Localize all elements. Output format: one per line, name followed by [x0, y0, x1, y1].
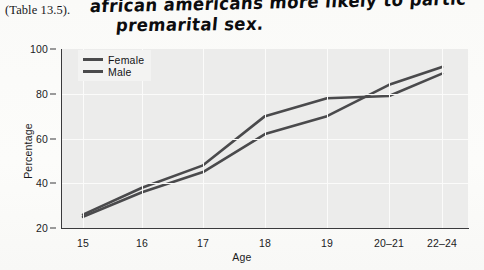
handwritten-annotation-line-2: premarital sex.: [115, 13, 484, 35]
y-tick-mark: [50, 93, 56, 94]
legend-item-male: Male: [83, 66, 144, 77]
gridline-vertical: [327, 49, 328, 228]
x-tick-label: 15: [77, 237, 89, 249]
y-tick-label: 40: [36, 177, 48, 189]
x-tick-label: 19: [321, 237, 333, 249]
y-tick-label: 80: [36, 88, 48, 100]
x-tick-label: 22–24: [427, 237, 457, 249]
legend-swatch-icon: [83, 58, 103, 61]
legend-label: Female: [108, 54, 144, 66]
legend-swatch-icon: [83, 70, 103, 73]
gridline-vertical: [389, 49, 390, 228]
y-tick-mark: [50, 183, 56, 184]
y-tick-label: 100: [30, 43, 48, 55]
gridline-vertical: [203, 49, 204, 228]
y-axis-ticks: 100 80 60 40 20: [18, 40, 56, 240]
table-reference-caption: (Table 13.5).: [5, 3, 70, 18]
handwritten-annotation: african americans more likely to partic …: [90, 0, 484, 34]
legend-item-female: Female: [83, 54, 144, 65]
x-axis-label: Age: [0, 251, 484, 263]
gridline-vertical: [442, 49, 443, 228]
legend-label: Male: [108, 66, 132, 78]
y-tick-mark: [50, 138, 56, 139]
x-tick-label: 16: [136, 237, 148, 249]
x-tick-label: 17: [197, 237, 209, 249]
y-axis-line: [61, 49, 62, 229]
y-tick-label: 60: [36, 133, 48, 145]
x-tick-label: 18: [259, 237, 271, 249]
textbook-page: (Table 13.5). african americans more lik…: [0, 0, 484, 270]
y-tick-mark: [50, 49, 56, 50]
line-chart-figure: Percentage 100 80 60: [0, 40, 484, 270]
x-tick-label: 20–21: [374, 237, 404, 249]
chart-legend: Female Male: [78, 50, 151, 81]
gridline-vertical: [265, 49, 266, 228]
